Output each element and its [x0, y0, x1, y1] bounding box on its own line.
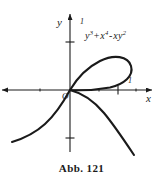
x-axis-label: x	[146, 93, 151, 104]
x-axis-left-arrow-icon	[2, 87, 8, 92]
equation-term-3-exponent: 2	[123, 29, 127, 36]
equation-annotation: y3+x4-xy2	[85, 30, 126, 41]
curve-lower-right-branch	[70, 90, 134, 155]
curve-loop-branch	[70, 57, 132, 90]
y-axis-label: y	[57, 17, 62, 28]
y-axis-tick-label-1: 1	[80, 18, 84, 26]
origin-label: O	[62, 92, 69, 101]
figure-container: y x O 1 1 y3+x4-xy2 Abb. 121	[0, 0, 163, 182]
x-axis-tick-label-1: 1	[128, 77, 132, 85]
figure-caption: Abb. 121	[0, 162, 163, 174]
equation-term-3-base: xy	[113, 30, 122, 41]
